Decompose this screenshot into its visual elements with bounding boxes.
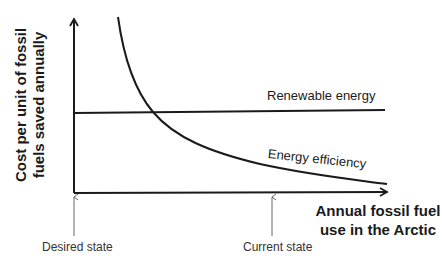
current-state-label: Current state [243, 240, 312, 254]
desired-state-label: Desired state [42, 240, 113, 254]
x-axis-label-line1: Annual fossil fuel [313, 201, 442, 220]
y-axis-label-line1: Cost per unit of fossil [12, 28, 30, 182]
x-axis [74, 192, 387, 193]
renewable-energy-label: Renewable energy [267, 88, 375, 103]
x-axis-label-line2: use in the Arctic [313, 220, 442, 239]
y-axis-label-line2: fuels saved annually [30, 28, 48, 182]
x-axis-label: Annual fossil fuel use in the Arctic [313, 201, 442, 239]
renewable-energy-line [74, 110, 385, 113]
